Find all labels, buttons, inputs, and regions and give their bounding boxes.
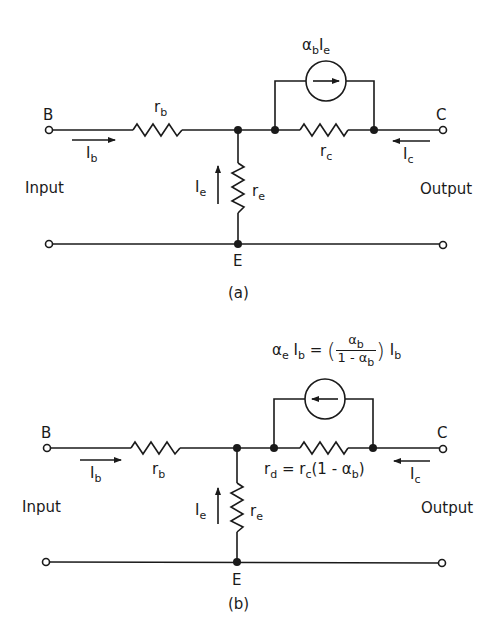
junction-dot [233,558,241,566]
terminal-c [440,127,447,134]
label-ib: Ib [90,466,101,484]
label-input: Input [25,181,64,196]
label-ic: Ic [410,467,421,485]
junction-dot [233,444,241,452]
label-rb: rb [152,462,165,480]
label-output: Output [420,182,472,197]
resistor-rb [133,124,182,136]
wire [346,81,374,130]
wire [345,399,373,448]
junction-dot [271,126,279,134]
label-current-source-b: αe Ib = (αb1 - αb) Ib [272,333,401,368]
node-label-b: B [43,108,53,123]
junction-dot [370,126,378,134]
node-label-b: B [41,426,51,441]
junction-dot [369,444,377,452]
resistor-re [232,163,244,213]
terminal-input-ground [46,241,53,248]
label-re: re [250,504,263,522]
wire [275,81,306,130]
node-label-c: C [436,108,446,123]
terminal-output-ground [439,560,446,567]
label-rd-formula: rd = rc(1 - αb) [264,462,365,480]
caption-a: (a) [228,286,249,301]
junction-dot [234,240,242,248]
terminal-b [46,127,53,134]
node-label-e: E [232,573,241,588]
resistor-re [231,483,243,532]
wire [49,562,440,563]
label-ie: Ie [195,503,206,521]
label-re: re [252,184,265,202]
node-label-c: C [437,426,447,441]
fraction: αb1 - αb [336,333,377,368]
wire [274,399,305,448]
label-rb: rb [154,100,167,118]
label-ic: Ic [403,147,414,165]
label-current-source-a: αbIe [302,38,330,56]
label-rc: rc [320,144,332,162]
terminal-b [44,445,51,452]
label-output: Output [421,501,473,516]
terminal-c [440,446,447,453]
terminal-output-ground [440,242,447,249]
label-ib: Ib [86,146,97,164]
resistor-rd [300,442,348,454]
resistor-rc [300,124,348,136]
resistor-rb [131,442,180,454]
panel-b-circuit [49,379,440,563]
terminal-input-ground [43,559,50,566]
node-label-e: E [233,254,242,269]
circuit-diagrams [0,0,496,633]
junction-dot [270,444,278,452]
label-input: Input [22,500,61,515]
junction-dot [234,126,242,134]
caption-b: (b) [228,597,249,612]
panel-a-circuit [52,61,440,244]
label-ie: Ie [195,180,206,198]
